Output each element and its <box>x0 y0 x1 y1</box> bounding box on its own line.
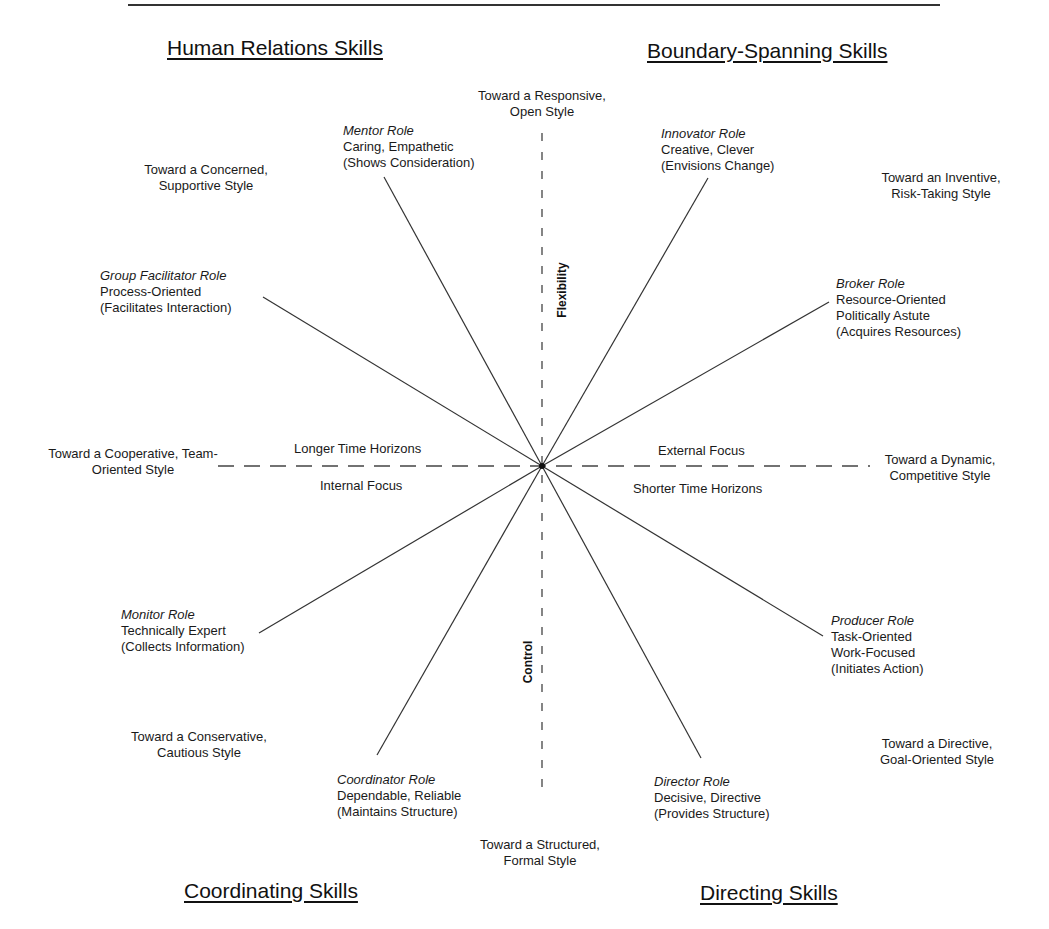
style-top-right: Toward an Inventive, Risk-Taking Style <box>870 170 1012 202</box>
role-mentor: Mentor Role Caring, Empathetic (Shows Co… <box>343 123 475 171</box>
role-producer-line-1: Task-Oriented <box>831 629 924 645</box>
style-left-line-2: Oriented Style <box>38 462 228 478</box>
style-right-line-2: Competitive Style <box>872 468 1008 484</box>
quadrant-title-coordinating: Coordinating Skills <box>184 878 358 904</box>
role-coordinator-name: Coordinator Role <box>337 772 461 788</box>
role-director-line-2: (Provides Structure) <box>654 806 770 822</box>
center-point <box>539 463 545 469</box>
style-right: Toward a Dynamic, Competitive Style <box>872 452 1008 484</box>
role-mentor-line-2: (Shows Consideration) <box>343 155 475 171</box>
quadrant-title-directing: Directing Skills <box>700 880 838 906</box>
role-producer-line-3: (Initiates Action) <box>831 661 924 677</box>
axis-label-flexibility: Flexibility <box>555 260 569 320</box>
style-bottom-left-line-1: Toward a Conservative, <box>118 729 280 745</box>
role-innovator-name: Innovator Role <box>661 126 774 142</box>
style-top-left-line-2: Supportive Style <box>128 178 284 194</box>
role-group-facilitator-name: Group Facilitator Role <box>100 268 232 284</box>
style-right-line-1: Toward a Dynamic, <box>872 452 1008 468</box>
role-broker-line-2: Politically Astute <box>836 308 961 324</box>
role-group-facilitator-line-1: Process-Oriented <box>100 284 232 300</box>
label-longer-time-horizons: Longer Time Horizons <box>294 441 421 457</box>
style-left-line-1: Toward a Cooperative, Team- <box>38 446 228 462</box>
spoke-mentor <box>384 177 542 466</box>
role-coordinator: Coordinator Role Dependable, Reliable (M… <box>337 772 461 820</box>
role-monitor-name: Monitor Role <box>121 607 245 623</box>
style-left: Toward a Cooperative, Team- Oriented Sty… <box>38 446 228 478</box>
role-broker-line-3: (Acquires Resources) <box>836 324 961 340</box>
role-broker-name: Broker Role <box>836 276 961 292</box>
spoke-coordinator <box>377 466 542 755</box>
style-top-right-line-2: Risk-Taking Style <box>870 186 1012 202</box>
role-coordinator-line-1: Dependable, Reliable <box>337 788 461 804</box>
style-bottom-line-1: Toward a Structured, <box>464 837 616 853</box>
label-external-focus: External Focus <box>658 443 745 459</box>
role-producer: Producer Role Task-Oriented Work-Focused… <box>831 613 924 677</box>
label-shorter-time-horizons: Shorter Time Horizons <box>633 481 762 497</box>
quadrant-title-human-relations: Human Relations Skills <box>167 35 383 61</box>
style-top: Toward a Responsive, Open Style <box>472 88 612 120</box>
style-bottom-left-line-2: Cautious Style <box>118 745 280 761</box>
style-bottom-right: Toward a Directive, Goal-Oriented Style <box>862 736 1012 768</box>
role-innovator-line-1: Creative, Clever <box>661 142 774 158</box>
role-broker: Broker Role Resource-Oriented Politicall… <box>836 276 961 340</box>
style-top-right-line-1: Toward an Inventive, <box>870 170 1012 186</box>
role-director-line-1: Decisive, Directive <box>654 790 770 806</box>
role-monitor-line-2: (Collects Information) <box>121 639 245 655</box>
spoke-director <box>542 466 701 758</box>
style-top-left-line-1: Toward a Concerned, <box>128 162 284 178</box>
role-mentor-line-1: Caring, Empathetic <box>343 139 475 155</box>
role-monitor: Monitor Role Technically Expert (Collect… <box>121 607 245 655</box>
label-internal-focus: Internal Focus <box>320 478 402 494</box>
role-producer-name: Producer Role <box>831 613 924 629</box>
style-bottom-right-line-1: Toward a Directive, <box>862 736 1012 752</box>
role-monitor-line-1: Technically Expert <box>121 623 245 639</box>
style-top-line-1: Toward a Responsive, <box>472 88 612 104</box>
role-innovator-line-2: (Envisions Change) <box>661 158 774 174</box>
axis-label-control: Control <box>521 637 535 687</box>
role-producer-line-2: Work-Focused <box>831 645 924 661</box>
role-coordinator-line-2: (Maintains Structure) <box>337 804 461 820</box>
style-bottom-left: Toward a Conservative, Cautious Style <box>118 729 280 761</box>
role-broker-line-1: Resource-Oriented <box>836 292 961 308</box>
spoke-broker <box>542 302 829 466</box>
quadrant-title-boundary-spanning: Boundary-Spanning Skills <box>647 38 887 64</box>
style-bottom-line-2: Formal Style <box>464 853 616 869</box>
style-bottom-right-line-2: Goal-Oriented Style <box>862 752 1012 768</box>
role-mentor-name: Mentor Role <box>343 123 475 139</box>
role-director-name: Director Role <box>654 774 770 790</box>
role-director: Director Role Decisive, Directive (Provi… <box>654 774 770 822</box>
style-top-line-2: Open Style <box>472 104 612 120</box>
spoke-innovator <box>542 178 708 466</box>
role-group-facilitator: Group Facilitator Role Process-Oriented … <box>100 268 232 316</box>
role-group-facilitator-line-2: (Facilitates Interaction) <box>100 300 232 316</box>
role-innovator: Innovator Role Creative, Clever (Envisio… <box>661 126 774 174</box>
style-bottom: Toward a Structured, Formal Style <box>464 837 616 869</box>
style-top-left: Toward a Concerned, Supportive Style <box>128 162 284 194</box>
